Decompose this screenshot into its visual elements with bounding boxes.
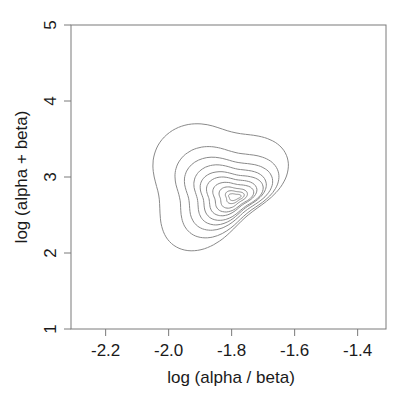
x-axis-ticks: -2.2-2.0-1.8-1.6-1.4 [91,329,372,360]
y-tick-label: 2 [41,248,60,257]
contour-line [225,191,244,204]
x-axis-title: log (alpha / beta) [167,368,295,387]
x-tick-label: -2.0 [154,341,183,360]
contour-lines [153,124,289,251]
x-tick-label: -1.8 [217,341,246,360]
x-tick-label: -2.2 [91,341,120,360]
axes [71,25,386,329]
plot-frame [71,25,386,329]
y-tick-label: 5 [41,20,60,29]
contour-line [213,182,254,212]
y-tick-label: 1 [41,324,60,333]
x-tick-label: -1.4 [343,341,372,360]
y-tick-label: 3 [41,172,60,181]
contour-line [184,157,272,230]
x-tick-label: -1.6 [280,341,309,360]
y-axis-ticks: 12345 [41,20,71,333]
y-tick-label: 4 [41,96,60,105]
y-axis-title: log (alpha + beta) [12,111,31,244]
contour-line [153,124,289,251]
contour-plot: -2.2-2.0-1.8-1.6-1.4 12345 log (alpha / … [0,0,401,408]
